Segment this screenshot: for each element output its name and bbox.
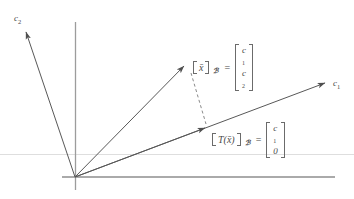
T-x-bar-row2: 0 [273, 147, 278, 156]
x-bar-row1: c1 [242, 46, 246, 67]
T-x-bar-column-vector-bracket: c1 0 [266, 122, 285, 158]
T-x-bar-column-vector: c1 0 [271, 123, 280, 157]
T-x-bar-vector-arrow [75, 128, 205, 177]
x-bar-column-vector-bracket: c1 c2 [235, 44, 253, 91]
x-bar-column-vector: c1 c2 [240, 45, 248, 90]
T-x-bar-symbol: T(x̄) [217, 134, 236, 145]
T-x-bar-row1: c1 [273, 124, 278, 145]
c1-axis-label: c1 [333, 79, 340, 90]
x-bar-symbol: x̄ [198, 62, 204, 73]
x-bar-bracket: x̄ [193, 61, 209, 74]
basis-subscript-b: ℬ [213, 67, 219, 75]
c2-axis-label: c2 [14, 14, 21, 25]
c2-axis-arrow [26, 32, 75, 177]
equals-sign-2: = [255, 134, 263, 145]
x-bar-coordinate-label: x̄ ℬ = c1 c2 [193, 44, 253, 91]
x-bar-row2: c2 [242, 69, 246, 90]
x-bar-vector-arrow [75, 66, 184, 177]
equals-sign: = [223, 62, 231, 73]
T-x-bar-coordinate-label: T(x̄) ℬ = c1 0 [212, 122, 285, 158]
basis-subscript-b-2: ℬ [245, 139, 251, 147]
diagram-canvas [0, 0, 354, 199]
vector-diagram-figure: c2 c1 x̄ ℬ = c1 c2 T(x̄) ℬ = c1 0 [0, 0, 354, 199]
T-x-bar-bracket: T(x̄) [212, 133, 241, 146]
